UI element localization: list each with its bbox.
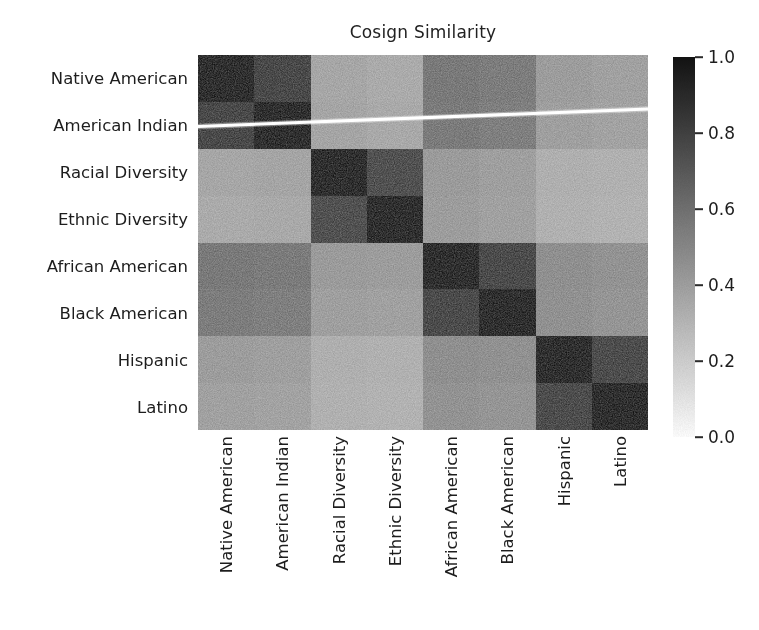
colorbar-tick-mark <box>695 132 703 134</box>
y-axis-tick-labels: Native AmericanAmerican IndianRacial Div… <box>0 55 188 430</box>
heatmap-cell <box>254 383 310 430</box>
heatmap-cell <box>536 289 592 336</box>
heatmap-cell <box>592 383 648 430</box>
heatmap-cell <box>254 243 310 290</box>
heatmap-cell <box>479 149 535 196</box>
heatmap-cell <box>367 149 423 196</box>
x-tick-label: Ethnic Diversity <box>385 436 404 566</box>
heatmap-cell-grid <box>198 55 648 430</box>
heatmap-cell <box>423 383 479 430</box>
figure-canvas: Cosign Similarity Native AmericanAmerica… <box>0 0 759 630</box>
heatmap-cell <box>311 149 367 196</box>
heatmap-cell <box>536 336 592 383</box>
x-tick-label: Racial Diversity <box>329 436 348 564</box>
heatmap-cell <box>198 149 254 196</box>
heatmap-cell <box>592 102 648 149</box>
y-tick-label: Native American <box>0 69 188 88</box>
heatmap-cell <box>592 149 648 196</box>
colorbar-tick-label: 0.6 <box>708 199 735 219</box>
heatmap-cell <box>536 196 592 243</box>
chart-title: Cosign Similarity <box>198 22 648 42</box>
heatmap-cell <box>592 196 648 243</box>
heatmap-cell <box>254 102 310 149</box>
heatmap-cell <box>311 102 367 149</box>
y-tick-label: Racial Diversity <box>0 163 188 182</box>
x-tick-slot: Racial Diversity <box>311 430 367 626</box>
colorbar-tick-label: 1.0 <box>708 47 735 67</box>
colorbar-tick-mark <box>695 284 703 286</box>
heatmap-cell <box>311 196 367 243</box>
heatmap-cell <box>254 289 310 336</box>
heatmap-cell <box>367 243 423 290</box>
x-tick-slot: Black American <box>479 430 535 626</box>
heatmap-cell <box>423 196 479 243</box>
heatmap-cell <box>254 196 310 243</box>
heatmap-cell <box>367 196 423 243</box>
heatmap-cell <box>479 336 535 383</box>
colorbar-tick-mark <box>695 436 703 438</box>
y-tick-label: Ethnic Diversity <box>0 210 188 229</box>
colorbar-tick-mark <box>695 56 703 58</box>
heatmap-cell <box>367 336 423 383</box>
colorbar-tick-label: 0.0 <box>708 427 735 447</box>
x-tick-label: Hispanic <box>554 436 573 506</box>
heatmap-cell <box>423 55 479 102</box>
colorbar-tick-mark <box>695 208 703 210</box>
heatmap-cell <box>423 289 479 336</box>
heatmap-cell <box>592 336 648 383</box>
heatmap-cell <box>254 55 310 102</box>
x-tick-label: African American <box>442 436 461 577</box>
heatmap-cell <box>423 102 479 149</box>
heatmap-cell <box>198 336 254 383</box>
x-tick-slot: African American <box>423 430 479 626</box>
heatmap-cell <box>198 102 254 149</box>
x-tick-label: Latino <box>610 436 629 487</box>
heatmap-cell <box>311 289 367 336</box>
heatmap-cell <box>311 243 367 290</box>
heatmap-cell <box>479 196 535 243</box>
heatmap-cell <box>423 149 479 196</box>
colorbar-tick-mark <box>695 360 703 362</box>
x-tick-label: Black American <box>498 436 517 564</box>
x-tick-slot: Ethnic Diversity <box>367 430 423 626</box>
heatmap-cell <box>536 243 592 290</box>
heatmap-cell <box>479 55 535 102</box>
colorbar <box>673 57 695 437</box>
colorbar-tick-label: 0.4 <box>708 275 735 295</box>
x-tick-label: American Indian <box>273 436 292 571</box>
y-tick-label: Hispanic <box>0 350 188 369</box>
x-tick-label: Native American <box>217 436 236 573</box>
colorbar-tick-label: 0.2 <box>708 351 735 371</box>
heatmap-cell <box>479 289 535 336</box>
colorbar-gradient <box>673 57 695 437</box>
heatmap-cell <box>311 383 367 430</box>
x-tick-slot: Latino <box>592 430 648 626</box>
x-axis-tick-labels: Native AmericanAmerican IndianRacial Div… <box>198 430 648 626</box>
heatmap-cell <box>592 55 648 102</box>
heatmap-cell <box>367 289 423 336</box>
heatmap-cell <box>536 149 592 196</box>
heatmap-cell <box>198 55 254 102</box>
heatmap-cell <box>198 383 254 430</box>
heatmap-cell <box>592 243 648 290</box>
x-tick-slot: American Indian <box>254 430 310 626</box>
y-tick-label: African American <box>0 256 188 275</box>
y-tick-label: American Indian <box>0 116 188 135</box>
x-tick-slot: Native American <box>198 430 254 626</box>
heatmap-cell <box>311 55 367 102</box>
heatmap-cell <box>423 336 479 383</box>
heatmap-cell <box>311 336 367 383</box>
y-tick-label: Black American <box>0 303 188 322</box>
heatmap-cell <box>479 102 535 149</box>
heatmap-cell <box>536 383 592 430</box>
heatmap-cell <box>198 289 254 336</box>
heatmap-cell <box>536 102 592 149</box>
heatmap-cell <box>367 383 423 430</box>
y-tick-label: Latino <box>0 397 188 416</box>
heatmap-cell <box>479 243 535 290</box>
heatmap-cell <box>254 149 310 196</box>
colorbar-tick-label: 0.8 <box>708 123 735 143</box>
heatmap-cell <box>198 196 254 243</box>
heatmap-cell <box>367 55 423 102</box>
heatmap-cell <box>254 336 310 383</box>
